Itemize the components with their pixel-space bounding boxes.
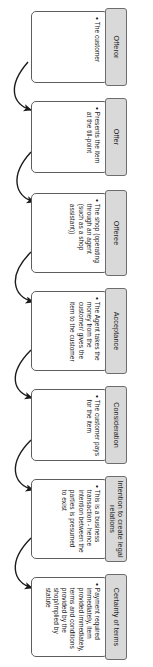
node-offeror-body: • The customer — [31, 11, 108, 83]
node-certainty-header: Certainty of terms — [105, 574, 127, 660]
node-acceptance-body: • The Agent takes the money from the cus… — [31, 291, 108, 371]
connector-offeror-to-offer — [14, 62, 31, 110]
node-certainty-body: • Payment required immediately, item pro… — [31, 577, 108, 657]
node-offeree-header-label: Offeree — [112, 221, 119, 246]
node-consideration-body: • The customer pays for the item — [31, 389, 108, 461]
node-intention-body: • This is a business transaction - hence… — [31, 479, 108, 559]
bullet-text: The customer — [93, 22, 101, 78]
diagram-stage: Offeror • The customer Offer • Presents … — [0, 0, 153, 667]
node-acceptance-header: Acceptance — [105, 288, 127, 374]
contract-formation-flowchart: Offeror • The customer Offer • Presents … — [0, 0, 153, 667]
node-consideration-header: Consideration — [105, 386, 127, 464]
bullet-item: • The customer — [93, 17, 101, 78]
bullet-text: Payment required immediately, item provi… — [44, 588, 101, 652]
bullet-dot-icon: • — [93, 297, 101, 300]
bullet-text: Presents the item at the till-point — [85, 112, 101, 168]
node-offeror-header: Offeror — [105, 8, 127, 86]
node-offeree[interactable]: Offeree • The shop (operating through an… — [31, 190, 135, 276]
node-offeree-header: Offeree — [105, 190, 127, 276]
bullet-dot-icon: • — [93, 583, 101, 586]
bullet-text: The customer pays for the item — [85, 400, 101, 456]
node-offer-header-label: Offer — [112, 129, 119, 145]
node-certainty-header-label: Certainty of terms — [112, 588, 119, 647]
bullet-text: The Agent takes the money from the custo… — [68, 302, 101, 366]
node-intention-header: Intention to create legal relations — [105, 476, 127, 562]
bullet-item: • The customer pays for the item — [85, 395, 101, 456]
node-offer[interactable]: Offer • Presents the item at the till-po… — [31, 98, 135, 176]
node-acceptance[interactable]: Acceptance • The Agent takes the money f… — [31, 288, 135, 374]
node-consideration[interactable]: Consideration • The customer pays for th… — [31, 386, 135, 464]
node-acceptance-header-label: Acceptance — [112, 312, 119, 351]
bullet-item: • Presents the item at the till-point — [85, 107, 101, 168]
bullet-dot-icon: • — [93, 17, 101, 20]
bullet-dot-icon: • — [93, 485, 101, 488]
node-certainty-of-terms[interactable]: Certainty of terms • Payment required im… — [31, 574, 135, 660]
node-intention-to-create-legal-relations[interactable]: Intention to create legal relations • Th… — [31, 476, 135, 562]
bullet-dot-icon: • — [93, 395, 101, 398]
bullet-dot-icon: • — [93, 199, 101, 202]
node-offeree-body: • The shop (operating through an agent (… — [31, 193, 108, 273]
bullet-item: • This is a business transaction - hence… — [60, 485, 101, 554]
bullet-text: This is a business transaction - hence i… — [60, 490, 101, 554]
connector-intention-to-certainty — [15, 538, 32, 588]
node-intention-header-label: Intention to create legal relations — [108, 477, 125, 561]
node-offeror[interactable]: Offeror • The customer — [31, 8, 135, 86]
bullet-dot-icon: • — [93, 107, 101, 110]
bullet-item: • The Agent takes the money from the cus… — [68, 297, 101, 366]
bullet-item: • The shop (operating through an agent (… — [68, 199, 101, 268]
connector-acceptance-to-consideration — [15, 350, 32, 398]
node-offer-body: • Presents the item at the till-point — [31, 101, 108, 173]
node-consideration-header-label: Consideration — [112, 402, 119, 448]
node-offeror-header-label: Offeror — [112, 36, 119, 59]
bullet-text: The shop (operating through an agent (su… — [68, 204, 101, 268]
bullet-item: • Payment required immediately, item pro… — [44, 583, 101, 652]
node-offer-header: Offer — [105, 98, 127, 176]
